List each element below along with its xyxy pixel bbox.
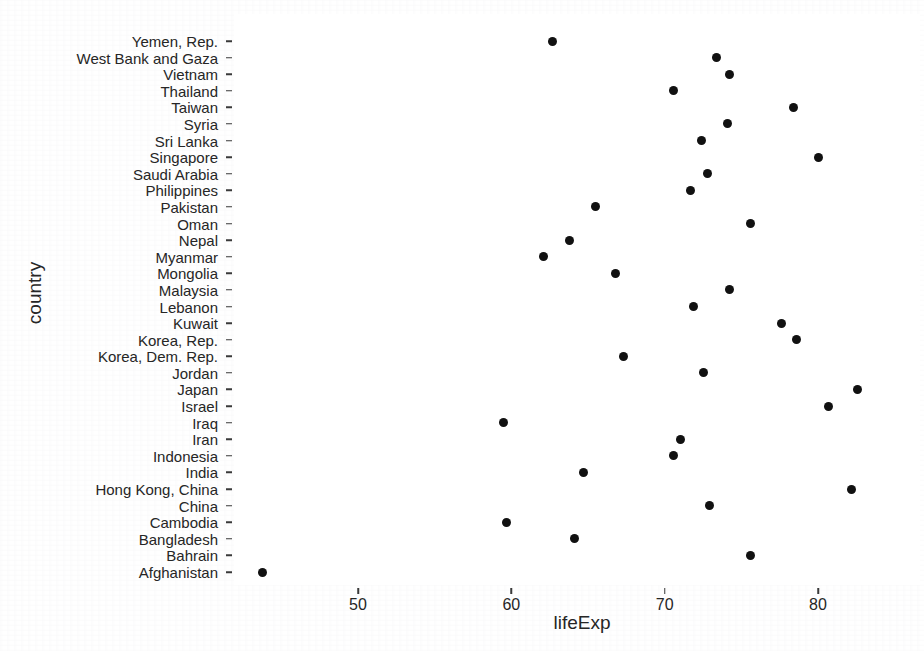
y-tick-label: Saudi Arabia — [133, 166, 218, 181]
y-tick-mark — [226, 289, 232, 291]
data-point — [591, 202, 600, 211]
x-tick-label: 80 — [809, 597, 827, 613]
dot-plot-chart: country Yemen, Rep.West Bank and GazaVie… — [0, 0, 924, 651]
y-tick-mark — [226, 521, 232, 523]
data-point — [539, 252, 548, 261]
y-tick-mark — [226, 389, 232, 391]
y-tick-mark — [226, 505, 232, 507]
data-point — [789, 103, 798, 112]
data-point — [824, 402, 833, 411]
y-tick-mark — [226, 107, 232, 109]
y-tick-mark — [226, 57, 232, 59]
y-tick-label: Oman — [177, 216, 218, 231]
data-point — [703, 169, 712, 178]
y-tick-label: China — [179, 498, 218, 513]
y-tick-label: Syria — [184, 116, 218, 131]
y-tick-label: Nepal — [179, 233, 218, 248]
y-tick-mark — [226, 372, 232, 374]
y-tick-mark — [226, 156, 232, 158]
y-tick-mark — [226, 555, 232, 557]
y-tick-label: Lebanon — [160, 299, 218, 314]
x-tick-label: 50 — [349, 597, 367, 613]
x-axis-title: lifeExp — [240, 612, 924, 634]
data-point — [792, 335, 801, 344]
y-tick-mark — [226, 455, 232, 457]
y-axis-tick-labels: Yemen, Rep.West Bank and GazaVietnamThai… — [50, 0, 228, 651]
y-tick-label: Pakistan — [160, 199, 218, 214]
y-tick-mark — [226, 306, 232, 308]
data-point — [699, 368, 708, 377]
y-tick-mark — [226, 538, 232, 540]
y-tick-label: Vietnam — [163, 67, 218, 82]
y-tick-mark — [226, 405, 232, 407]
y-tick-mark — [226, 123, 232, 125]
data-point — [258, 568, 267, 577]
y-tick-label: Korea, Rep. — [138, 332, 218, 347]
data-point — [502, 518, 511, 527]
x-tick-label: 70 — [656, 597, 674, 613]
y-tick-label: Kuwait — [173, 316, 218, 331]
data-point — [686, 186, 695, 195]
data-point — [669, 86, 678, 95]
data-point — [619, 352, 628, 361]
y-tick-mark — [226, 73, 232, 75]
y-tick-label: Korea, Dem. Rep. — [98, 349, 218, 364]
y-tick-label: Bangladesh — [139, 531, 218, 546]
data-point — [548, 37, 557, 46]
y-tick-label: Iran — [192, 432, 218, 447]
data-point — [689, 302, 698, 311]
y-tick-mark — [226, 356, 232, 358]
data-point — [746, 219, 755, 228]
data-point — [611, 269, 620, 278]
data-point — [723, 119, 732, 128]
y-tick-label: Philippines — [145, 183, 218, 198]
data-point — [725, 70, 734, 79]
x-tick-label: 60 — [502, 597, 520, 613]
data-point — [746, 551, 755, 560]
y-tick-label: Jordan — [172, 365, 218, 380]
y-tick-label: Sri Lanka — [155, 133, 218, 148]
y-tick-label: Afghanistan — [139, 565, 218, 580]
y-tick-mark — [226, 439, 232, 441]
data-point — [579, 468, 588, 477]
data-point — [853, 385, 862, 394]
y-tick-mark — [226, 422, 232, 424]
data-point — [814, 153, 823, 162]
y-tick-label: West Bank and Gaza — [77, 50, 218, 65]
data-point — [570, 534, 579, 543]
y-tick-mark — [226, 206, 232, 208]
y-tick-mark — [226, 140, 232, 142]
data-point — [565, 236, 574, 245]
y-tick-mark — [226, 256, 232, 258]
y-tick-label: Indonesia — [153, 448, 218, 463]
y-tick-label: Myanmar — [155, 249, 218, 264]
y-tick-mark — [226, 488, 232, 490]
y-tick-mark — [226, 273, 232, 275]
y-tick-label: Cambodia — [150, 515, 218, 530]
y-tick-label: India — [185, 465, 218, 480]
y-axis-title-text: country — [24, 261, 46, 323]
y-tick-mark — [226, 571, 232, 573]
y-tick-mark — [226, 322, 232, 324]
data-point — [499, 418, 508, 427]
y-tick-label: Mongolia — [157, 266, 218, 281]
data-point — [777, 319, 786, 328]
y-tick-label: Taiwan — [171, 100, 218, 115]
y-tick-mark — [226, 339, 232, 341]
data-point — [669, 451, 678, 460]
plot-panel — [234, 14, 920, 585]
y-tick-label: Iraq — [192, 415, 218, 430]
data-point — [676, 435, 685, 444]
y-tick-label: Thailand — [160, 83, 218, 98]
x-axis-title-text: lifeExp — [553, 612, 610, 633]
y-tick-mark — [226, 40, 232, 42]
y-tick-mark — [226, 472, 232, 474]
y-tick-label: Singapore — [150, 150, 218, 165]
y-tick-label: Japan — [177, 382, 218, 397]
x-tick-mark — [664, 588, 666, 594]
y-tick-label: Malaysia — [159, 282, 218, 297]
data-point — [697, 136, 706, 145]
y-tick-mark — [226, 223, 232, 225]
y-tick-mark — [226, 90, 232, 92]
y-tick-label: Hong Kong, China — [95, 482, 218, 497]
